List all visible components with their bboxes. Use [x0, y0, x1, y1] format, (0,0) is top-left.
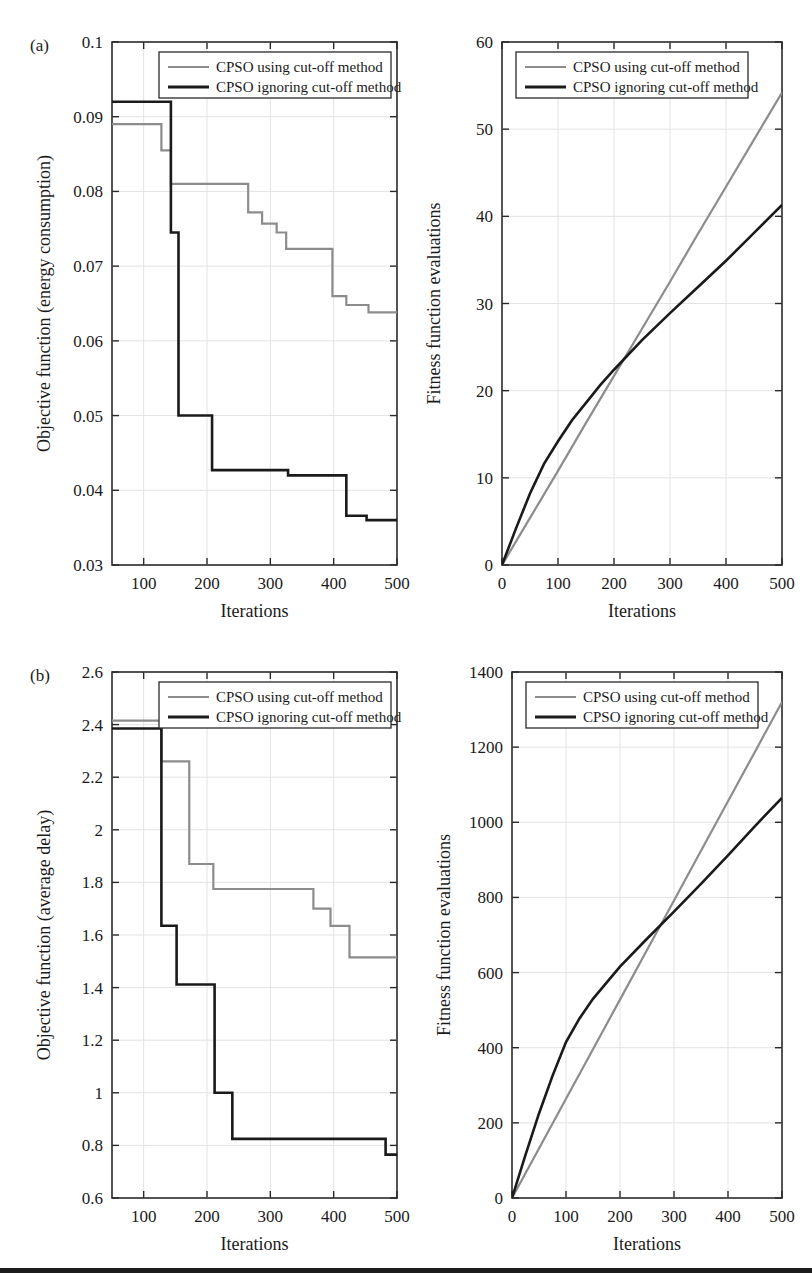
y-axis-label: Objective function (average delay) [34, 810, 55, 1060]
legend-label: CPSO using cut-off method [216, 59, 383, 75]
y-tick-label: 2.6 [82, 663, 103, 682]
x-tick-label: 100 [553, 1207, 579, 1226]
x-tick-label: 200 [194, 1207, 220, 1226]
x-tick-label: 100 [545, 574, 571, 593]
y-tick-label: 1.2 [82, 1031, 103, 1050]
chart-panel-b-left: 0.60.811.21.41.61.822.22.42.610020030040… [0, 630, 410, 1250]
x-tick-label: 0 [508, 1207, 517, 1226]
x-tick-label: 300 [661, 1207, 687, 1226]
y-axis-label: Fitness function evaluations [424, 203, 444, 405]
x-tick-label: 400 [715, 1207, 741, 1226]
y-tick-label: 800 [478, 888, 504, 907]
y-tick-label: 0.03 [73, 556, 103, 575]
chart-panel-a-left: 0.030.040.050.060.070.080.090.1100200300… [0, 0, 410, 620]
x-tick-label: 400 [321, 574, 347, 593]
x-tick-label: 300 [657, 574, 683, 593]
x-axis-label: Iterations [221, 1234, 289, 1250]
y-tick-label: 0.8 [82, 1136, 103, 1155]
plot-frame [112, 42, 397, 565]
y-tick-label: 0.1 [82, 33, 103, 52]
y-tick-label: 20 [476, 382, 493, 401]
y-tick-label: 0.08 [73, 182, 103, 201]
chart-legend: CPSO using cut-off methodCPSO ignoring c… [516, 52, 759, 98]
y-tick-label: 1.6 [82, 926, 103, 945]
chart-legend: CPSO using cut-off methodCPSO ignoring c… [526, 682, 769, 728]
chart-legend: CPSO using cut-off methodCPSO ignoring c… [159, 682, 402, 728]
x-tick-label: 0 [498, 574, 507, 593]
x-tick-label: 200 [194, 574, 220, 593]
x-tick-label: 400 [713, 574, 739, 593]
y-tick-label: 0.6 [82, 1189, 103, 1208]
y-tick-label: 10 [476, 469, 493, 488]
y-tick-label: 50 [476, 120, 493, 139]
x-axis-label: Iterations [608, 601, 676, 620]
plot-frame [512, 672, 782, 1198]
chart-panel-a-right: 01020304050600100200300400500IterationsF… [400, 0, 812, 620]
x-axis-label: Iterations [613, 1234, 681, 1250]
y-tick-label: 600 [478, 964, 504, 983]
x-tick-label: 500 [769, 1207, 795, 1226]
y-tick-label: 2 [95, 821, 104, 840]
y-tick-label: 1000 [469, 813, 503, 832]
legend-label: CPSO ignoring cut-off method [216, 79, 402, 95]
y-tick-label: 2.4 [82, 716, 104, 735]
y-tick-label: 200 [478, 1114, 504, 1133]
x-axis-label: Iterations [221, 601, 289, 620]
legend-label: CPSO ignoring cut-off method [573, 79, 759, 95]
legend-label: CPSO using cut-off method [573, 59, 740, 75]
panel-a: (a) 0.030.040.050.060.070.080.090.110020… [0, 0, 812, 620]
y-tick-label: 0.07 [73, 257, 103, 276]
bottom-divider-rule [0, 1268, 812, 1273]
y-tick-label: 0.09 [73, 108, 103, 127]
chart-legend: CPSO using cut-off methodCPSO ignoring c… [159, 52, 402, 98]
legend-label: CPSO using cut-off method [583, 689, 750, 705]
x-tick-label: 100 [131, 1207, 157, 1226]
y-tick-label: 0 [495, 1189, 504, 1208]
y-tick-label: 0.04 [73, 481, 103, 500]
y-tick-label: 0 [485, 556, 494, 575]
legend-label: CPSO ignoring cut-off method [583, 709, 769, 725]
y-tick-label: 0.06 [73, 332, 103, 351]
y-tick-label: 1 [95, 1084, 104, 1103]
y-tick-label: 1200 [469, 738, 503, 757]
y-tick-label: 1400 [469, 663, 503, 682]
x-tick-label: 300 [258, 574, 284, 593]
legend-label: CPSO ignoring cut-off method [216, 709, 402, 725]
y-axis-label: Fitness function evaluations [434, 834, 454, 1036]
x-tick-label: 200 [601, 574, 627, 593]
panel-b: (b) 0.60.811.21.41.61.822.22.42.61002003… [0, 630, 812, 1250]
y-axis-label: Objective function (energy consumption) [34, 155, 55, 452]
y-tick-label: 40 [476, 207, 493, 226]
y-tick-label: 60 [476, 33, 493, 52]
y-tick-label: 400 [478, 1039, 504, 1058]
y-tick-label: 2.2 [82, 768, 103, 787]
y-tick-label: 30 [476, 295, 493, 314]
figure-container: (a) 0.030.040.050.060.070.080.090.110020… [0, 0, 812, 1286]
x-tick-label: 500 [769, 574, 795, 593]
legend-label: CPSO using cut-off method [216, 689, 383, 705]
y-tick-label: 1.8 [82, 873, 103, 892]
x-tick-label: 100 [131, 574, 157, 593]
chart-panel-b-right: 0200400600800100012001400010020030040050… [400, 630, 812, 1250]
x-tick-label: 200 [607, 1207, 633, 1226]
y-tick-label: 0.05 [73, 407, 103, 426]
x-tick-label: 300 [258, 1207, 284, 1226]
x-tick-label: 400 [321, 1207, 347, 1226]
y-tick-label: 1.4 [82, 979, 104, 998]
